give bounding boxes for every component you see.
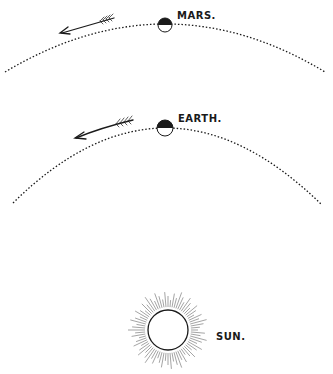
earth-planet [157, 120, 173, 136]
earth-label: EARTH. [178, 113, 222, 124]
mars-label: MARS. [177, 10, 216, 21]
sun-label: SUN. [216, 331, 246, 342]
earth-direction-arrow-icon [75, 116, 133, 139]
earth-orbit [13, 128, 322, 205]
sun [128, 292, 207, 369]
mars-planet [158, 18, 172, 32]
orbit-diagram [0, 0, 333, 374]
